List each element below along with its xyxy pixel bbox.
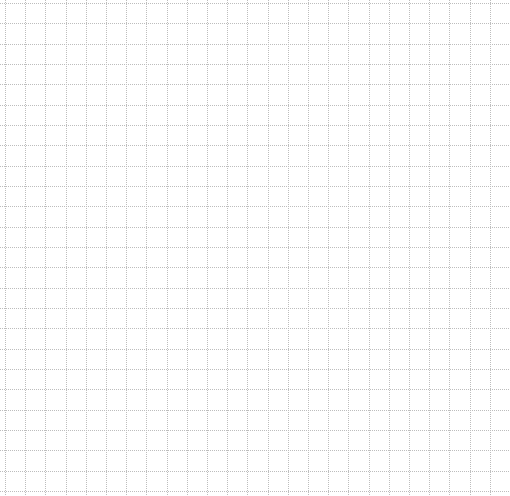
grid-svg [0, 0, 510, 496]
